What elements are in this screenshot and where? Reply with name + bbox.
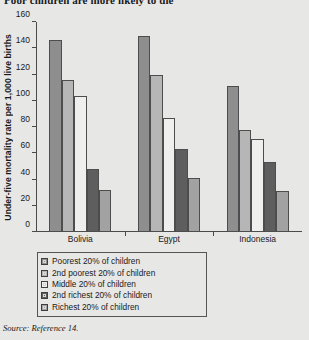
chart-legend: Poorest 20% of children2nd poorest 20% o… [37,252,207,317]
figure-chart: Poor children are more likely to die Und… [0,0,309,340]
y-axis-tick [32,126,36,127]
x-axis-group-label: Bolivia [68,234,93,244]
legend-item[interactable]: Poorest 20% of children [41,256,202,267]
y-axis-tick [32,74,36,75]
bar [150,75,162,233]
y-axis-title-label: Under-five mortality rate per 1,000 live… [3,34,13,221]
y-axis-tick-label: 100 [16,89,30,97]
legend-swatch-icon [41,270,48,277]
y-axis-tick [32,231,36,232]
y-axis-tick [32,47,36,48]
x-axis-tick [125,232,126,236]
bar [175,149,187,232]
y-axis-tick-label: 140 [16,36,30,44]
y-axis-tick-label: 60 [21,141,30,149]
plot-area: 020406080100120140160BoliviaEgyptIndones… [36,22,302,232]
legend-item[interactable]: 2nd poorest 20% of children [41,267,202,278]
y-axis-tick [32,205,36,206]
bar [99,190,111,232]
legend-item[interactable]: 2nd richest 20% of children [41,290,202,301]
bar [188,178,200,232]
legend-item[interactable]: Middle 20% of children [41,279,202,290]
y-axis-tick-label: 80 [21,115,30,123]
bar [264,162,276,232]
y-axis-tick [32,100,36,101]
legend-item-label: 2nd richest 20% of children [52,291,152,300]
y-axis-title: Under-five mortality rate per 1,000 live… [2,22,14,232]
y-axis-tick [32,21,36,22]
bar [163,118,175,232]
legend-item-label: Poorest 20% of children [52,257,140,266]
y-axis-tick-label: 160 [16,10,30,18]
x-axis-group-label: Egypt [158,234,180,244]
legend-swatch-icon [41,281,48,288]
y-axis-tick-label: 0 [25,220,30,228]
legend-item-label: Middle 20% of children [52,280,136,289]
y-axis-line [36,22,37,232]
legend-swatch-icon [41,258,48,265]
bar [49,40,61,232]
legend-swatch-icon [41,304,48,311]
bar [138,36,150,232]
y-axis-tick-label: 120 [16,63,30,71]
legend-item-label: 2nd poorest 20% of children [52,269,155,278]
y-axis-tick [32,152,36,153]
legend-item[interactable]: Richest 20% of children [41,302,202,313]
y-axis-tick-label: 20 [21,194,30,202]
x-axis-group-label: Indonesia [239,234,276,244]
bar [239,130,251,232]
bar [276,191,288,232]
source-note: Source: Reference 14. [3,323,78,333]
bar [74,96,86,233]
bar [87,169,99,232]
x-axis-tick [213,232,214,236]
chart-headline: Poor children are more likely to die [4,0,304,6]
bar [227,86,239,232]
legend-swatch-icon [41,292,48,299]
y-axis-tick-label: 40 [21,168,30,176]
y-axis-tick [32,179,36,180]
bar [62,80,74,232]
legend-item-label: Richest 20% of children [52,303,139,312]
bar [251,139,263,232]
